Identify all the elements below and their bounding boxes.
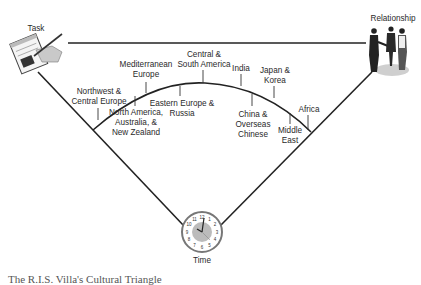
region-india: India [232, 64, 250, 74]
task-label: Task [28, 24, 45, 34]
relationship-label: Relationship [370, 14, 415, 24]
region-japan-korea: Japan &Korea [260, 66, 290, 86]
time-label: Time [193, 256, 211, 266]
notepad-writing-icon [10, 34, 62, 74]
svg-text:10: 10 [186, 222, 192, 227]
svg-text:12: 12 [199, 215, 205, 220]
region-northwest-central-europe: Northwest &Central Europe [71, 87, 126, 107]
region-mediterranean-europe: MediterraneanEurope [120, 60, 173, 80]
clock-icon: 121234567891011 [182, 212, 222, 252]
region-china-overseas-chinese: China &OverseasChinese [235, 110, 270, 140]
relationship-time-axis [220, 72, 372, 226]
region-middle-east: MiddleEast [278, 126, 302, 146]
region-eastern-europe-russia: Eastern Europe &Russia [150, 99, 215, 119]
svg-text:11: 11 [192, 217, 197, 222]
people-handshake-icon [369, 26, 409, 76]
region-central-south-america: Central &South America [177, 50, 230, 70]
figure-caption-partial: The R.I.S. Villa's Cultural Triangle [8, 273, 162, 285]
region-africa: Africa [299, 105, 320, 115]
